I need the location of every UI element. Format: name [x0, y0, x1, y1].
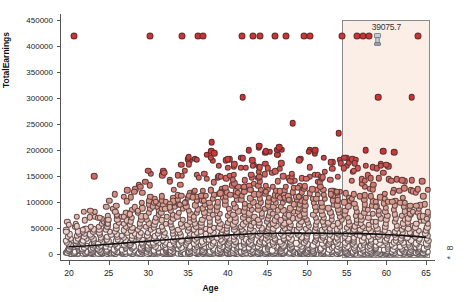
plot-area[interactable]: 39075.7	[61, 14, 434, 260]
x-tick-label: 55	[342, 268, 351, 278]
chart-canvas: TotalEarnings 05000010000015000020000025…	[0, 0, 465, 302]
legend-stub: 8 *	[440, 236, 460, 284]
x-tick-mark	[386, 261, 387, 265]
x-tick-label: 35	[183, 268, 192, 278]
x-tick-label: 40	[223, 268, 232, 278]
x-tick-label: 50	[302, 268, 311, 278]
x-tick-mark	[267, 261, 268, 265]
y-tick-label: 0	[49, 249, 53, 258]
x-tick-mark	[347, 261, 348, 265]
y-tick-label: 300000	[26, 94, 53, 103]
x-tick-mark	[228, 261, 229, 265]
y-tick-label: 50000	[31, 223, 53, 232]
y-tick-label: 250000	[26, 120, 53, 129]
x-tick-label: 20	[64, 268, 73, 278]
x-tick-label: 30	[144, 268, 153, 278]
x-tick-label: 65	[421, 268, 430, 278]
y-tick-label: 150000	[26, 171, 53, 180]
y-tick-label: 450000	[26, 16, 53, 25]
trend-line	[61, 14, 434, 260]
x-tick-mark	[69, 261, 70, 265]
drag-handle-icon[interactable]	[373, 33, 382, 46]
y-tick-label: 200000	[26, 145, 53, 154]
x-axis-title-text: Age	[202, 283, 218, 293]
x-tick-mark	[109, 261, 110, 265]
x-tick-label: 60	[382, 268, 391, 278]
legend-glyph-bottom: *	[446, 240, 455, 260]
y-tick-label: 100000	[26, 197, 53, 206]
x-tick-label: 25	[104, 268, 113, 278]
x-tick-label: 45	[263, 268, 272, 278]
y-tick-label: 350000	[26, 68, 53, 77]
y-tick-label: 400000	[26, 42, 53, 51]
y-axis-ticks: 0500001000001500002000002500003000003500…	[0, 0, 61, 302]
x-tick-mark	[148, 261, 149, 265]
x-axis-title: Age	[0, 283, 465, 293]
x-tick-mark	[307, 261, 308, 265]
x-tick-mark	[426, 261, 427, 265]
x-tick-mark	[188, 261, 189, 265]
